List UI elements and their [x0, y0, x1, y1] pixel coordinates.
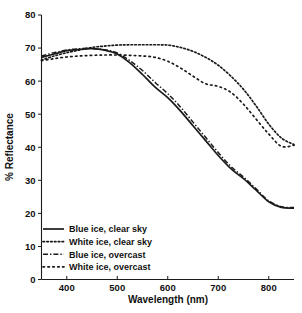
legend-label-3: Blue ice, overcast: [69, 250, 146, 260]
y-tick-label: 10: [25, 241, 36, 252]
series-line-3: [42, 48, 295, 207]
series-line-1: [42, 49, 295, 208]
x-tick-label: 500: [109, 282, 125, 293]
series-line-4: [42, 55, 295, 147]
y-tick-label: 70: [25, 42, 36, 53]
legend-label-4: White ice, overcast: [69, 262, 151, 272]
legend-label-1: Blue ice, clear sky: [69, 224, 147, 234]
x-tick-label: 700: [210, 282, 226, 293]
y-tick-label: 50: [25, 109, 36, 120]
y-tick-label: 30: [25, 175, 36, 186]
x-tick-label: 600: [160, 282, 176, 293]
x-tick-label: 400: [59, 282, 75, 293]
reflectance-line-chart: 01020304050607080 400500600700800 Wavele…: [0, 0, 302, 313]
x-tick-label: 800: [261, 282, 277, 293]
y-tick-label: 20: [25, 208, 36, 219]
x-axis-ticks: 400500600700800: [59, 276, 277, 293]
chart-legend: Blue ice, clear skyWhite ice, clear skyB…: [43, 224, 152, 272]
x-axis-title: Wavelength (nm): [128, 294, 208, 305]
y-tick-label: 80: [25, 9, 36, 20]
y-axis-ticks: 01020304050607080: [25, 9, 42, 285]
y-tick-label: 40: [25, 142, 36, 153]
y-tick-label: 60: [25, 76, 36, 87]
reflectance-spectrum-figure: 01020304050607080 400500600700800 Wavele…: [0, 0, 302, 313]
chart-series-group: [42, 45, 295, 208]
y-tick-label: 0: [30, 274, 35, 285]
y-axis-title: % Reflectance: [4, 113, 15, 181]
legend-label-2: White ice, clear sky: [69, 237, 152, 247]
